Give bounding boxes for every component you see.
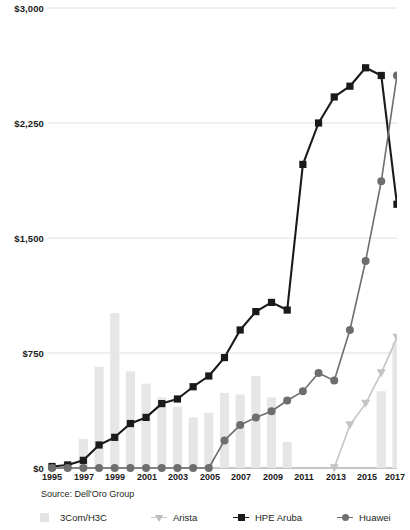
bar-2017 [392,342,397,468]
marker-huawei-21 [377,177,385,185]
marker-huawei-8 [173,464,181,472]
chart-legend: 3Com/H3C Arista HPE Aruba Huawei [38,512,397,530]
marker-huawei-11 [220,436,228,444]
marker-huawei-22 [393,71,397,79]
marker-huawei-6 [142,464,150,472]
marker-hpe-aruba-19 [346,83,353,90]
bar-1998 [94,367,103,468]
marker-hpe-aruba-12 [237,326,244,333]
legend-label-arista: Arista [173,512,197,523]
legend-item-huawei[interactable]: Huawei [337,512,391,523]
marker-hpe-aruba-21 [378,72,385,79]
bar-2010 [283,442,292,468]
bar-2016 [377,391,386,468]
bar-2008 [251,376,260,468]
marker-hpe-aruba-11 [221,354,228,361]
marker-huawei-5 [126,464,134,472]
bar-2006 [220,393,229,468]
marker-hpe-aruba-17 [315,119,322,126]
marker-huawei-0 [48,464,56,472]
legend-item-arista[interactable]: Arista [151,512,197,523]
marker-arista-2 [361,400,370,408]
bar-2003 [173,407,182,468]
bar-2002 [157,397,166,468]
marker-arista-4 [392,334,397,342]
source-note: Source: Dell'Oro Group [41,489,134,499]
bar-2004 [189,417,198,468]
triangle-marker-icon [151,512,167,523]
marker-huawei-2 [79,464,87,472]
marker-hpe-aruba-7 [158,400,165,407]
marker-huawei-4 [111,464,119,472]
marker-huawei-9 [189,464,197,472]
marker-arista-1 [345,421,354,429]
marker-hpe-aruba-22 [393,201,397,208]
marker-hpe-aruba-16 [299,161,306,168]
bar-2000 [126,371,135,468]
marker-huawei-3 [95,464,103,472]
marker-hpe-aruba-18 [331,93,338,100]
marker-hpe-aruba-9 [190,383,197,390]
marker-huawei-14 [268,407,276,415]
marker-hpe-aruba-8 [174,395,181,402]
marker-hpe-aruba-5 [127,420,134,427]
square-marker-icon [233,512,249,523]
bar-1999 [110,313,119,468]
legend-label-huawei: Huawei [359,512,391,523]
x-axis-label-2017: 2017 [375,472,410,482]
marker-huawei-17 [315,369,323,377]
bar-2007 [236,394,245,468]
marker-huawei-16 [299,387,307,395]
marker-hpe-aruba-2 [80,457,87,464]
marker-huawei-12 [236,421,244,429]
marker-huawei-1 [64,464,72,472]
bar-swatch-icon [38,512,54,523]
marker-huawei-7 [158,464,166,472]
marker-hpe-aruba-14 [268,299,275,306]
legend-label-hpe-aruba: HPE Aruba [255,512,302,523]
legend-label-3com-h3c: 3Com/H3C [60,512,107,523]
marker-huawei-19 [346,326,354,334]
marker-huawei-10 [205,464,213,472]
bar-2005 [204,413,213,468]
marker-huawei-15 [283,397,291,405]
marker-hpe-aruba-6 [142,414,149,421]
marker-hpe-aruba-10 [205,372,212,379]
circle-marker-icon [337,512,353,523]
marker-hpe-aruba-4 [111,434,118,441]
marker-huawei-20 [362,257,370,265]
marker-huawei-13 [252,413,260,421]
marker-hpe-aruba-20 [362,64,369,71]
marker-arista-3 [377,369,386,377]
legend-item-3com-h3c[interactable]: 3Com/H3C [38,512,107,523]
legend-item-hpe-aruba[interactable]: HPE Aruba [233,512,302,523]
marker-hpe-aruba-3 [95,441,102,448]
marker-hpe-aruba-13 [252,308,259,315]
bar-2001 [141,384,150,468]
marker-huawei-18 [330,377,338,385]
marker-hpe-aruba-15 [284,306,291,313]
